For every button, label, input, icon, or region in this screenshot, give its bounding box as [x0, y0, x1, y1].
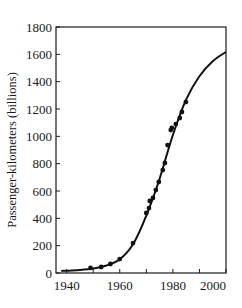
data-point: [183, 100, 188, 105]
data-point: [117, 257, 122, 262]
data-point: [131, 241, 136, 246]
y-tick-label: 600: [33, 184, 53, 199]
y-tick-label: 0: [46, 266, 53, 281]
data-point: [160, 168, 165, 173]
x-tick-label: 1980: [160, 278, 186, 293]
data-point: [163, 161, 168, 166]
y-tick-label: 1600: [26, 47, 52, 62]
y-tick-label: 200: [33, 238, 53, 253]
fit-curve: [61, 52, 226, 271]
data-point: [153, 188, 158, 193]
data-point: [156, 180, 161, 185]
data-point: [177, 116, 182, 121]
data-point: [180, 110, 185, 115]
data-points: [88, 100, 188, 271]
x-tick-label: 1940: [54, 278, 80, 293]
x-tick-label: 2000: [200, 278, 226, 293]
plot-border: [56, 27, 226, 273]
y-axis-title: Passenger-kilometers (billions): [5, 72, 19, 228]
y-tick-label: 800: [33, 156, 53, 171]
data-point: [88, 266, 93, 271]
y-tick-label: 1400: [26, 74, 52, 89]
y-axis: 020040060080010001200140016001800: [26, 20, 60, 281]
y-tick-label: 1000: [26, 129, 52, 144]
data-point: [151, 196, 156, 201]
data-point: [169, 126, 174, 131]
data-point: [165, 143, 170, 148]
chart-svg: 020040060080010001200140016001800 194019…: [0, 0, 242, 308]
chart: 020040060080010001200140016001800 194019…: [0, 0, 242, 308]
y-tick-label: 400: [33, 211, 53, 226]
data-point: [108, 262, 113, 267]
data-point: [147, 206, 152, 211]
x-tick-label: 1960: [107, 278, 133, 293]
data-point: [173, 122, 178, 127]
y-tick-label: 1200: [26, 102, 52, 117]
data-point: [99, 265, 104, 270]
y-tick-label: 1800: [26, 20, 52, 35]
data-point: [144, 211, 149, 216]
plot-frame: [56, 27, 226, 273]
